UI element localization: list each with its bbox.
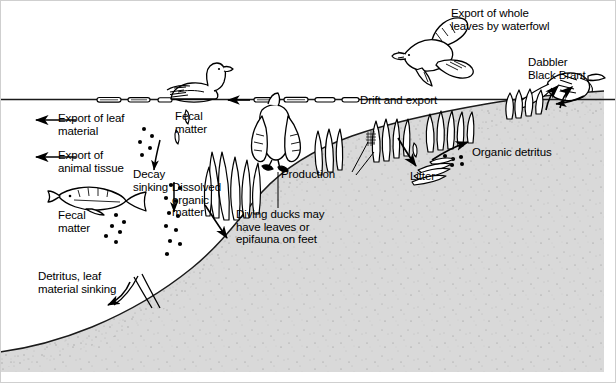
label-organic-detritus: Organic detritus <box>472 146 552 159</box>
label-export-animal-tissue: Export of animal tissue <box>58 149 124 174</box>
label-litter: Litter <box>410 170 435 183</box>
label-dissolved-organic-matter: Dissolved organic matter <box>172 181 221 219</box>
floating-leaf-icon <box>97 98 121 103</box>
label-fecal-matter-top: Fecal matter <box>175 110 207 135</box>
label-dabbler-black-brant: Dabbler Black Brant <box>528 56 586 81</box>
label-fecal-matter-left: Fecal matter <box>58 209 90 234</box>
ecosystem-diagram-figure: Export of leaf material Export of animal… <box>0 0 616 383</box>
label-export-whole-leaves: Export of whole leaves by waterfowl <box>451 7 549 32</box>
floating-leaf-icon <box>128 98 150 102</box>
label-production: Production <box>281 168 335 181</box>
label-export-leaf-material: Export of leaf material <box>58 112 124 137</box>
label-diving-ducks: Diving ducks may have leaves or epifauna… <box>236 208 325 246</box>
label-drift-and-export: Drift and export <box>360 94 437 107</box>
floating-leaf-icon <box>284 97 308 102</box>
floating-leaf-icon <box>342 98 359 102</box>
diagram-canvas <box>0 0 616 383</box>
label-decay-sinking: Decay sinking <box>133 168 168 193</box>
label-detritus-leaf-material-sinking: Detritus, leaf material sinking <box>38 270 116 295</box>
floating-leaf-icon <box>315 98 335 102</box>
floating-leaf-icon <box>158 98 172 102</box>
